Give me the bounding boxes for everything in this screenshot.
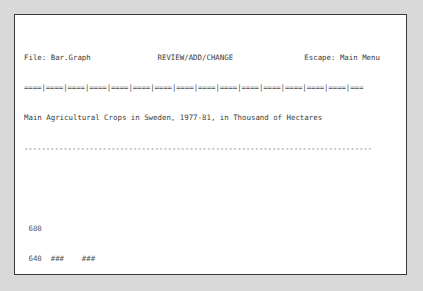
terminal-text-area[interactable]: File: Bar.Graph REVIEW/ADD/CHANGE Escape… bbox=[24, 23, 402, 272]
title-underline: ----------------------------------------… bbox=[24, 144, 402, 154]
chart-title: Main Agricultural Crops in Sweden, 1977-… bbox=[24, 113, 402, 123]
blank-row bbox=[24, 184, 402, 194]
chart-row: 640 ### ### bbox=[24, 254, 402, 264]
column-ruler: ====|====|====|====|====|====|====|====|… bbox=[24, 83, 402, 93]
chart-row: 680 bbox=[24, 224, 402, 234]
terminal-screen: File: Bar.Graph REVIEW/ADD/CHANGE Escape… bbox=[14, 14, 407, 275]
header-status-line: File: Bar.Graph REVIEW/ADD/CHANGE Escape… bbox=[24, 53, 402, 63]
